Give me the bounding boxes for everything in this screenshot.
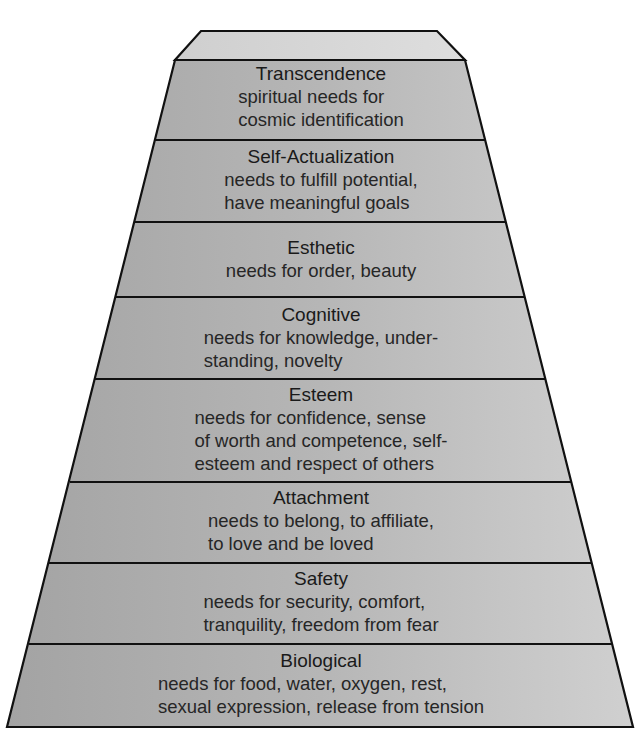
tier-cognitive: Cognitive needs for knowledge, under- st…: [0, 303, 642, 372]
tier-desc-line: sexual expression, release from tension: [158, 695, 484, 718]
tier-description: needs to belong, to affiliate, to love a…: [208, 509, 434, 555]
tier-title: Cognitive: [281, 303, 360, 326]
tier-desc-line: needs for knowledge, under-: [204, 326, 438, 349]
tier-description: needs for knowledge, under- standing, no…: [204, 326, 438, 372]
tier-desc-line: to love and be loved: [208, 532, 434, 555]
tier-desc-line: cosmic identification: [238, 108, 404, 131]
tier-biological: Biological needs for food, water, oxygen…: [0, 649, 642, 718]
tier-title: Biological: [280, 649, 361, 672]
tier-description: needs for order, beauty: [226, 259, 416, 282]
tier-safety: Safety needs for security, comfort, tran…: [0, 567, 642, 636]
tier-esthetic: Esthetic needs for order, beauty: [0, 236, 642, 282]
tier-desc-line: esteem and respect of others: [195, 452, 448, 475]
tier-desc-line: needs to belong, to affiliate,: [208, 509, 434, 532]
tier-desc-line: needs for security, comfort,: [203, 590, 438, 613]
tier-attachment: Attachment needs to belong, to affiliate…: [0, 486, 642, 555]
tier-desc-line: standing, novelty: [204, 349, 438, 372]
tier-description: spiritual needs for cosmic identificatio…: [238, 85, 404, 131]
tier-title: Attachment: [273, 486, 369, 509]
tier-title: Esthetic: [287, 236, 355, 259]
tier-title: Self-Actualization: [248, 145, 395, 168]
pyramid-cap: [175, 31, 465, 60]
tier-desc-line: needs to fulfill potential,: [224, 168, 417, 191]
tier-description: needs for confidence, sense of worth and…: [195, 406, 448, 475]
tier-desc-line: needs for order, beauty: [226, 259, 416, 282]
tier-desc-line: tranquility, freedom from fear: [203, 613, 438, 636]
tier-title: Safety: [294, 567, 348, 590]
tier-transcendence: Transcendence spiritual needs for cosmic…: [0, 62, 642, 131]
tier-desc-line: of worth and competence, self-: [195, 429, 448, 452]
tier-esteem: Esteem needs for confidence, sense of wo…: [0, 383, 642, 475]
tier-desc-line: needs for confidence, sense: [195, 406, 448, 429]
tier-desc-line: spiritual needs for: [238, 85, 404, 108]
tier-description: needs for security, comfort, tranquility…: [203, 590, 438, 636]
tier-desc-line: have meaningful goals: [224, 191, 417, 214]
tier-self-actualization: Self-Actualization needs to fulfill pote…: [0, 145, 642, 214]
tier-desc-line: needs for food, water, oxygen, rest,: [158, 672, 484, 695]
tier-title: Esteem: [289, 383, 353, 406]
tier-description: needs for food, water, oxygen, rest, sex…: [158, 672, 484, 718]
tier-title: Transcendence: [256, 62, 386, 85]
tier-description: needs to fulfill potential, have meaning…: [224, 168, 417, 214]
